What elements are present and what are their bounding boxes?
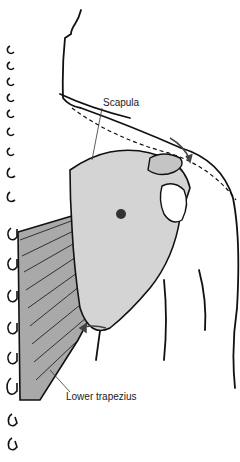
lower-trapezius-label: Lower trapezius (66, 391, 137, 402)
spine-vertebrae (7, 46, 17, 450)
scapula-label: Scapula (103, 97, 139, 108)
scapula-center-marker (116, 209, 126, 219)
scapula-bone (70, 150, 190, 330)
